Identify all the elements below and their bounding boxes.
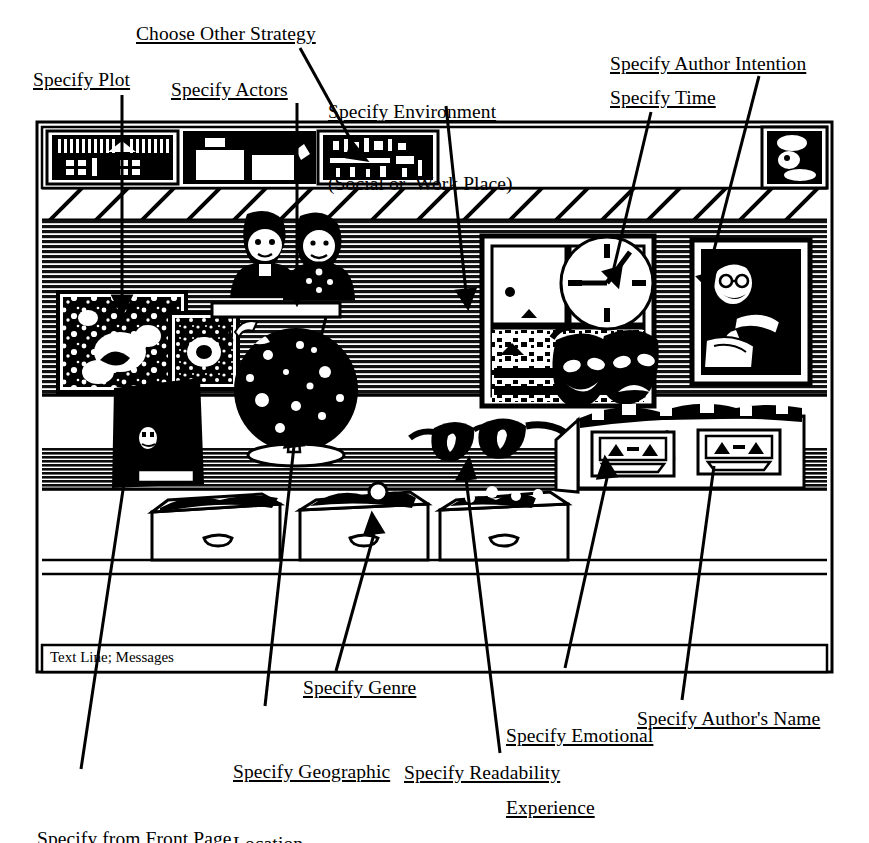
- callout-specify-from-front-page[interactable]: Specify from Front Page Pictures and Col…: [37, 779, 232, 843]
- callout-specify-environment[interactable]: Specify Environment (Social or Work Plac…: [328, 52, 512, 244]
- leader-specify-from-front-page: [81, 450, 135, 769]
- callout-choose-other-strategy[interactable]: Choose Other Strategy: [136, 22, 316, 46]
- callout-specify-actors[interactable]: Specify Actors: [171, 78, 288, 102]
- callout-specify-emotional-experience[interactable]: Specify Emotional Experience: [506, 676, 653, 843]
- callout-specify-genre[interactable]: Specify Genre: [303, 676, 416, 700]
- leader-specify-genre: [336, 514, 383, 671]
- leader-specify-time: [604, 112, 651, 286]
- callout-specify-readability[interactable]: Specify Readability: [404, 761, 560, 785]
- leader-specify-readability: [457, 459, 500, 753]
- message-bar-text: Text Line; Messages: [50, 649, 174, 666]
- leader-specify-emotional-experience: [565, 458, 616, 668]
- callout-specify-authors-name[interactable]: Specify Author's Name: [637, 707, 820, 731]
- leader-specify-actors: [288, 103, 306, 304]
- callout-specify-geographic-location[interactable]: Specify Geographic Location: [233, 712, 390, 843]
- leader-specify-geographic-location: [265, 426, 303, 706]
- leader-specify-plot: [113, 95, 131, 314]
- callout-specify-plot[interactable]: Specify Plot: [33, 68, 130, 92]
- callout-specify-author-intention[interactable]: Specify Author Intention: [610, 52, 806, 76]
- leader-specify-authors-name: [682, 466, 714, 700]
- figure-root: Choose Other Strategy Specify Plot Speci…: [0, 0, 869, 843]
- callout-specify-time[interactable]: Specify Time: [610, 86, 716, 110]
